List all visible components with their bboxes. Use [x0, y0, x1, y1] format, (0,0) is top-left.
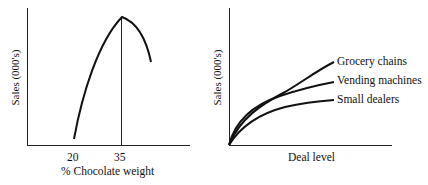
left-x-axis-label: % Chocolate weight [61, 166, 154, 178]
label-vending-machines: Vending machines [337, 75, 422, 87]
label-grocery-chains: Grocery chains [337, 56, 407, 68]
left-y-axis-label: Sales (000's) [10, 41, 21, 115]
left-chart-curve [74, 17, 151, 139]
left-x-tick-35: 35 [114, 152, 126, 164]
right-x-axis-label: Deal level [288, 152, 335, 164]
right-y-axis-label: Sales (000's) [212, 41, 223, 115]
left-chart-axes [27, 8, 190, 146]
curve-vending-machines [229, 82, 334, 145]
label-small-dealers: Small dealers [337, 94, 399, 106]
curve-small-dealers [229, 100, 334, 145]
curve-grocery-chains [229, 62, 334, 145]
left-x-tick-20: 20 [67, 152, 79, 164]
